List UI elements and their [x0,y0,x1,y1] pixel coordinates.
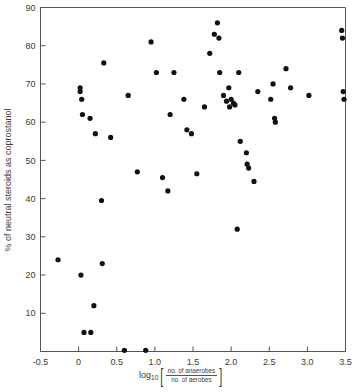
x-tick-label: -0.5 [33,357,49,367]
data-point [78,89,83,94]
x-tick-label: 1.5 [187,357,200,367]
data-point [88,330,93,335]
data-point [202,104,207,109]
data-point [99,198,104,203]
data-point [244,150,249,155]
data-point [224,99,229,104]
data-point [341,89,346,94]
data-point [288,85,293,90]
y-tick-label: 20 [25,270,35,280]
data-point [79,97,84,102]
plot-canvas: 102030405060708090 -0.500.51.01.52.02.53… [0,0,358,392]
x-tick-label: 2.5 [263,357,276,367]
data-point [246,165,251,170]
data-point [238,139,243,144]
data-point [93,131,98,136]
data-point [236,70,241,75]
data-point [339,28,344,33]
y-tick-label: 40 [25,194,35,204]
data-point [184,127,189,132]
y-tick-label: 50 [25,156,35,166]
data-point [126,93,131,98]
data-point [87,116,92,121]
data-point [148,39,153,44]
y-tick-label: 60 [25,117,35,127]
data-point [255,89,260,94]
data-point [100,261,105,266]
x-tick-label: 3.0 [301,357,314,367]
x-axis-ticks: -0.500.51.01.52.02.53.03.5 [33,347,352,367]
x-tick-label: 1.0 [149,357,162,367]
data-point [270,81,275,86]
data-point [235,227,240,232]
scatter-plot-figure: 102030405060708090 -0.500.51.01.52.02.53… [0,0,358,392]
data-point [306,93,311,98]
data-point [194,171,199,176]
x-tick-label: 0 [76,357,81,367]
data-point [341,97,346,102]
data-point [81,330,86,335]
data-point [91,303,96,308]
data-point [55,257,60,262]
data-point [101,60,106,65]
data-point [283,66,288,71]
x-axis-label: log10 [ no. of anaerobes no. of aerobes … [139,368,224,383]
fraction-numerator: no. of anaerobes [166,368,217,376]
data-point [216,35,221,40]
data-point [171,70,176,75]
x-axis-label-subscript: 10 [151,374,158,381]
data-point [160,175,165,180]
y-tick-label: 90 [25,3,35,13]
data-point [189,131,194,136]
data-point [122,348,127,353]
data-point [80,112,85,117]
x-tick-label: 0.5 [110,357,123,367]
axes-box [41,8,346,352]
data-point [215,20,220,25]
y-tick-label: 80 [25,41,35,51]
y-tick-label: 10 [25,308,35,318]
data-point [165,188,170,193]
data-point [221,93,226,98]
x-tick-label: 2.0 [225,357,238,367]
x-tick-label: 3.5 [339,357,352,367]
data-point [168,112,173,117]
fraction-denominator: no. of aerobes [169,376,213,383]
data-points-group [55,20,346,353]
axes-frame [41,8,346,352]
data-point [181,97,186,102]
data-point [251,179,256,184]
y-tick-label: 70 [25,79,35,89]
data-point [154,70,159,75]
data-point [212,32,217,37]
data-point [232,102,237,107]
y-axis-ticks: 102030405060708090 [25,3,45,319]
data-point [227,104,232,109]
bracket-close-icon: ] [219,371,222,381]
data-point [340,35,345,40]
data-point [207,51,212,56]
bracket-open-icon: [ [161,371,164,381]
data-point [217,70,222,75]
data-point [143,348,148,353]
data-point [273,120,278,125]
data-point [108,135,113,140]
x-axis-label-fraction: no. of anaerobes no. of aerobes [166,368,217,383]
data-point [226,85,231,90]
x-axis-label-log: log10 [139,370,158,381]
data-point [268,97,273,102]
y-tick-label: 30 [25,232,35,242]
y-axis-label: % of neutral steroids as coprostanol [3,108,13,251]
data-point [78,272,83,277]
data-point [135,169,140,174]
